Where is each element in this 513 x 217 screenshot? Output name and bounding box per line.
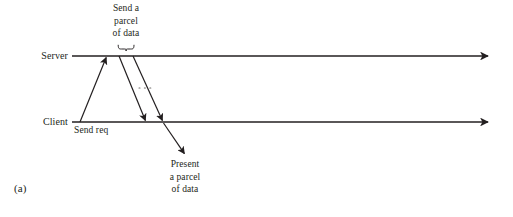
annotation-line: Present [155,158,215,171]
annotation-line: a parcel [155,171,215,184]
figure-caption: (a) [14,182,54,195]
message-arrow-send-req [80,58,106,123]
client-lane-label: Client [10,116,68,129]
annotation-line: parcel [96,15,156,28]
annotation-line: of data [155,183,215,196]
curly-brace-icon [118,45,134,51]
figure-root: Server Client Send a parcel of data Send… [0,0,513,217]
annotation-line: Send a [96,2,156,15]
annotation-line: of data [96,27,156,40]
annotation-line: Send req [74,124,144,137]
annotation-send-req: Send req [74,124,144,137]
diagram-canvas [0,0,513,217]
annotation-send-a-parcel-of-data: Send a parcel of data [96,2,156,40]
message-arrow-parcel-1 [119,56,145,121]
message-arrow-present [164,123,185,154]
message-arrow-parcel-2 [133,56,162,121]
annotation-present-a-parcel-of-data: Present a parcel of data [155,158,215,196]
server-lane-label: Server [10,50,68,63]
